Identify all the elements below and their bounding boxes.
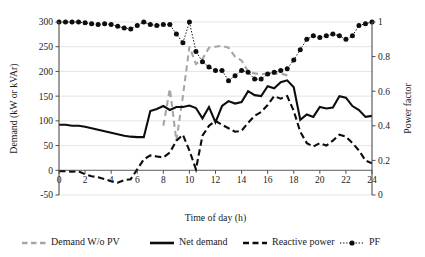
pf-data-point [337,33,342,38]
pf-data-point [63,20,68,25]
pf-data-point [115,24,120,29]
pf-data-point [311,33,316,38]
pf-data-point [363,21,368,26]
x-axis-tick-label: 18 [289,175,299,185]
pf-data-point [154,23,159,28]
pf-data-point [278,68,283,73]
x-axis-tick-label: 16 [263,175,273,185]
pf-data-point [350,33,355,38]
x-axis-tick-label: 4 [109,175,114,185]
pf-data-point [174,32,179,37]
pf-data-point [89,21,94,26]
pf-data-point [135,23,140,28]
left-axis-tick-label: 50 [44,141,54,151]
pf-data-point [304,37,309,42]
right-axis-tick-label: 0.6 [378,87,390,97]
x-axis-tick-label: 24 [367,175,377,185]
x-axis-tick-label: 12 [211,175,221,185]
x-axis-tick-label: 0 [57,175,62,185]
pf-data-point [96,22,101,27]
pf-data-point [317,35,322,40]
pf-data-point [239,68,244,73]
x-axis-title: Time of day (h) [185,212,246,224]
chart-figure: -5005010015020025030000.20.40.60.8102468… [0,0,425,257]
right-axis-tick-label: 0.8 [378,52,390,62]
left-axis-tick-label: 200 [39,67,54,77]
left-axis-tick-label: -50 [40,190,53,200]
pf-data-point [180,40,185,45]
chart-svg: -5005010015020025030000.20.40.60.8102468… [0,0,425,257]
pf-data-point [206,64,211,69]
chart-legend: Demand W/o PVNet demandReactive powerPF [22,236,381,247]
pf-data-point [252,77,257,82]
left-axis-tick-label: 0 [48,166,53,176]
pf-data-point [291,58,296,63]
legend-label: PF [369,236,381,247]
y-axis-title: Demand (kW or kVAr) [8,63,20,153]
axis-tick-labels: -5005010015020025030000.20.40.60.8102468… [39,17,390,200]
legend-label: Reactive power [272,236,335,247]
x-axis-tick-label: 22 [341,175,351,185]
pf-data-point [70,20,75,25]
pf-data-point [233,73,238,78]
x-axis-tick-label: 14 [237,175,247,185]
series-net-demand [59,80,372,137]
y2-axis-title: Power factor [402,83,413,134]
pf-data-point [324,33,329,38]
x-axis-tick-label: 10 [185,175,195,185]
pf-data-point [141,20,146,25]
plot-series [57,20,375,183]
pf-data-point [259,77,264,82]
left-axis-tick-label: 250 [39,42,54,52]
pf-data-point [161,22,166,27]
right-axis-tick-label: 0 [378,190,383,200]
x-axis-tick-label: 8 [161,175,166,185]
pf-data-point [200,59,205,64]
pf-data-point [193,49,198,54]
pf-data-point [226,78,231,83]
legend-label: Demand W/o PV [51,236,120,247]
pf-data-point [213,68,218,73]
right-axis-tick-label: 0.2 [378,156,390,166]
left-axis-tick-label: 150 [39,92,54,102]
pf-data-point [220,68,225,73]
pf-data-point [102,21,107,26]
pf-data-point [246,70,251,75]
legend-marker-pf [349,240,354,245]
pf-data-point [128,26,133,31]
x-axis-tick-label: 2 [83,175,88,185]
pf-data-point [83,20,88,25]
axis-titles: Demand (kW or kVAr)Power factorTime of d… [8,63,413,224]
pf-data-point [272,70,277,75]
x-axis-tick-label: 20 [315,175,325,185]
pf-data-point [356,23,361,28]
pf-data-point [265,71,270,76]
pf-data-point [343,37,348,42]
pf-data-point [330,32,335,37]
pf-data-point [109,22,114,27]
pf-data-point [167,22,172,27]
legend-label: Net demand [179,236,228,247]
pf-data-point [148,22,153,27]
right-axis-tick-label: 1 [378,17,383,27]
pf-data-point [285,66,290,71]
right-axis-tick-label: 0.4 [378,121,390,131]
pf-data-point [122,26,127,31]
pf-data-point [187,20,192,25]
pf-data-point [76,20,81,25]
left-axis-tick-label: 300 [39,17,54,27]
pf-data-point [298,47,303,52]
left-axis-tick-label: 100 [39,116,54,126]
x-axis-tick-label: 6 [135,175,140,185]
